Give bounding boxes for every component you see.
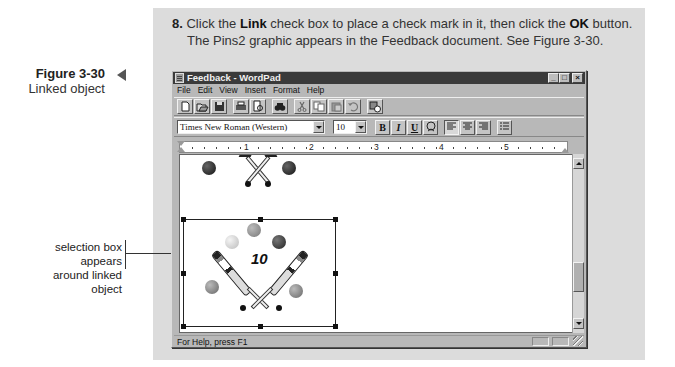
font-name-value: Times New Roman (Western) [180, 122, 287, 132]
align-left-button[interactable] [444, 120, 459, 135]
insert-datetime-icon[interactable] [367, 99, 383, 114]
font-size-value: 10 [336, 122, 345, 132]
new-icon[interactable] [177, 99, 193, 114]
format-bar: Times New Roman (Western) 10 B I U [174, 117, 584, 137]
figure-caption: Figure 3-30 Linked object [28, 67, 105, 96]
wordpad-app-icon[interactable] [175, 73, 184, 83]
menu-bar: File Edit View Insert Format Help [174, 85, 584, 96]
pin-handle-right [251, 287, 274, 310]
undo-icon[interactable] [345, 99, 361, 114]
ruler-number-1: 1 [244, 142, 249, 153]
save-icon[interactable] [211, 99, 227, 114]
wordpad-window: Feedback - WordPad _ □ × File Edit View … [171, 70, 587, 348]
step-text-2: check box to place a check mark in it, t… [267, 16, 570, 31]
figure-pointer-icon [117, 69, 126, 81]
status-cell-2 [552, 337, 569, 346]
copy-icon[interactable] [311, 99, 327, 114]
status-bar: For Help, press F1 [174, 335, 584, 347]
linked-object-selection-box[interactable]: 10 [183, 219, 336, 327]
figure-number: Figure 3-30 [28, 67, 105, 81]
font-name-select[interactable]: Times New Roman (Western) [177, 120, 325, 134]
first-line-indent-marker[interactable] [177, 141, 185, 146]
find-icon[interactable] [272, 99, 288, 114]
scroll-down-icon[interactable] [573, 318, 584, 329]
align-center-button[interactable] [460, 120, 475, 135]
callout-bracket [125, 240, 126, 269]
textbook-page: 8. Click the Link check box to place a c… [0, 0, 675, 367]
ruler-number-4: 4 [439, 142, 444, 153]
minimize-button[interactable]: _ [548, 73, 559, 83]
step-text-1: Click the [186, 16, 239, 31]
menu-edit[interactable]: Edit [198, 85, 213, 96]
maximize-button[interactable]: □ [559, 73, 570, 83]
step-instruction: 8. Click the Link check box to place a c… [172, 15, 642, 49]
standard-toolbar [174, 97, 584, 116]
resize-handle-nw[interactable] [181, 217, 186, 222]
color-button[interactable] [423, 120, 438, 135]
ruler-number-3: 3 [374, 142, 379, 153]
scroll-thumb[interactable] [573, 262, 584, 292]
menu-format[interactable]: Format [273, 85, 300, 96]
callout-leader-line [125, 253, 177, 254]
graphic-number: 10 [251, 250, 268, 267]
resize-handle-w[interactable] [181, 271, 186, 276]
right-indent-marker[interactable] [561, 148, 569, 153]
status-cell-1 [532, 337, 549, 346]
bold-button[interactable]: B [375, 120, 390, 135]
font-size-select[interactable]: 10 [333, 120, 367, 134]
vertical-scrollbar[interactable] [572, 154, 584, 333]
callout-line-1: selection box appears [20, 240, 122, 268]
menu-help[interactable]: Help [307, 85, 324, 96]
open-icon[interactable] [194, 99, 210, 114]
paste-icon[interactable] [328, 99, 344, 114]
close-button[interactable]: × [572, 73, 583, 83]
callout-label: selection box appears around linked obje… [20, 240, 122, 296]
scroll-up-icon[interactable] [573, 158, 584, 169]
document-area[interactable]: 10 [179, 154, 572, 333]
underline-button[interactable]: U [407, 120, 422, 135]
resize-handle-s[interactable] [258, 324, 263, 329]
figure-title: Linked object [28, 81, 105, 96]
pin-left [238, 155, 278, 191]
italic-button[interactable]: I [391, 120, 406, 135]
ok-label: OK [569, 16, 589, 31]
bullets-button[interactable] [497, 120, 512, 135]
window-controls: _ □ × [548, 73, 583, 83]
step-text-3: button. [589, 16, 632, 31]
callout-line-2: around linked object [20, 268, 122, 296]
resize-handle-sw[interactable] [181, 324, 186, 329]
chevron-down-icon[interactable] [313, 121, 324, 133]
print-preview-icon[interactable] [250, 99, 266, 114]
chevron-down-icon[interactable] [355, 121, 366, 133]
ruler-number-5: 5 [504, 142, 509, 153]
step-number: 8. [172, 16, 183, 31]
ruler[interactable]: 1 2 3 4 5 [179, 141, 568, 153]
resize-handle-se[interactable] [333, 324, 338, 329]
resize-handle-e[interactable] [333, 271, 338, 276]
pins-graphic-partial [198, 155, 298, 195]
window-title: Feedback - WordPad [187, 72, 281, 83]
status-text: For Help, press F1 [177, 337, 247, 347]
ruler-number-2: 2 [309, 142, 314, 153]
align-right-button[interactable] [476, 120, 491, 135]
resize-handle-ne[interactable] [333, 217, 338, 222]
left-indent-marker[interactable] [177, 147, 185, 152]
resize-handle-n[interactable] [258, 217, 263, 222]
menu-file[interactable]: File [177, 85, 191, 96]
resize-grip-icon[interactable] [573, 336, 583, 346]
cut-icon[interactable] [294, 99, 310, 114]
print-icon[interactable] [233, 99, 249, 114]
title-bar[interactable]: Feedback - WordPad _ □ × [173, 72, 585, 84]
menu-view[interactable]: View [219, 85, 237, 96]
link-label: Link [240, 16, 267, 31]
step-text-line2: The Pins2 graphic appears in the Feedbac… [172, 32, 642, 49]
menu-insert[interactable]: Insert [245, 85, 266, 96]
